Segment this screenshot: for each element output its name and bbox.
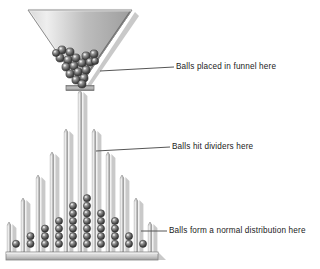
divider-5 — [64, 129, 67, 252]
bin-3-ball-3 — [41, 225, 48, 232]
ball-highlight — [66, 58, 68, 60]
ball-highlight — [76, 70, 78, 72]
funnel-ball-18 — [52, 49, 59, 56]
bin-7-ball-3 — [97, 225, 104, 232]
ball-body — [66, 70, 74, 78]
ball-body — [91, 57, 98, 64]
ball-body — [83, 233, 90, 240]
ball-body — [83, 195, 90, 202]
ball-highlight — [85, 196, 87, 198]
ball-body — [97, 210, 104, 217]
ball-highlight — [64, 65, 66, 67]
ball-highlight — [93, 59, 95, 61]
bin-10-ball-1 — [139, 240, 146, 247]
ball-highlight — [57, 227, 59, 229]
ball-highlight — [85, 242, 87, 244]
ball-highlight — [74, 78, 76, 80]
ball-highlight — [29, 234, 31, 236]
ball-highlight — [141, 242, 143, 244]
bin-7-ball-2 — [97, 233, 104, 240]
ball-body — [41, 233, 48, 240]
ball-body — [55, 225, 62, 232]
bin-5-ball-1 — [69, 240, 76, 247]
ball-body — [27, 240, 34, 247]
ball-highlight — [82, 76, 84, 78]
funnel-ball-12 — [66, 70, 74, 78]
bin-8-ball-4 — [111, 217, 118, 224]
bin-8-ball-2 — [111, 233, 118, 240]
ball-body — [97, 217, 104, 224]
bin-1-ball-1 — [12, 240, 19, 247]
divider-9 — [120, 175, 123, 252]
bin-3-ball-1 — [41, 240, 48, 247]
diagram-canvas: Balls placed in funnel here Balls hit di… — [0, 0, 320, 269]
ball-highlight — [71, 234, 73, 236]
ball-highlight — [14, 242, 16, 244]
divider-8 — [106, 152, 109, 252]
bin-4-ball-2 — [55, 233, 62, 240]
ball-highlight — [84, 68, 86, 70]
bin-7-ball-1 — [97, 240, 104, 247]
ball-highlight — [85, 219, 87, 221]
bin-6-ball-1 — [83, 240, 90, 247]
funnel — [28, 10, 132, 91]
bin-4-ball-4 — [55, 217, 62, 224]
ball-highlight — [85, 227, 87, 229]
ball-highlight — [71, 204, 73, 206]
ball-highlight — [80, 61, 82, 63]
divider-2 — [21, 198, 24, 252]
ball-body — [83, 210, 90, 217]
ball-highlight — [72, 64, 74, 66]
annotation-label-dividers: Balls hit dividers here — [172, 143, 253, 151]
bin-7-ball-4 — [97, 217, 104, 224]
ball-highlight — [43, 234, 45, 236]
divider-4 — [50, 152, 53, 252]
ball-body — [111, 225, 118, 232]
ball-highlight — [85, 211, 87, 213]
ball-body — [83, 225, 90, 232]
bin-6-ball-5 — [83, 210, 90, 217]
ball-body — [125, 240, 132, 247]
funnel-ball-13 — [74, 68, 82, 76]
bin-2-ball-1 — [27, 240, 34, 247]
ball-highlight — [92, 52, 94, 54]
ball-highlight — [127, 234, 129, 236]
ball-highlight — [71, 242, 73, 244]
ball-highlight — [80, 82, 82, 84]
ball-body — [90, 50, 98, 58]
annotation-label-distribution: Balls form a normal distribution here — [169, 227, 306, 235]
bin-9-ball-1 — [125, 240, 132, 247]
ball-highlight — [99, 234, 101, 236]
ball-highlight — [54, 51, 56, 53]
ball-body — [69, 225, 76, 232]
ball-highlight — [43, 227, 45, 229]
ball-highlight — [99, 242, 101, 244]
ball-body — [55, 233, 62, 240]
ball-body — [41, 240, 48, 247]
bin-8-ball-3 — [111, 225, 118, 232]
ball-body — [27, 233, 34, 240]
bin-6-ball-4 — [83, 217, 90, 224]
ball-body — [139, 240, 146, 247]
divider-1 — [7, 222, 10, 252]
divider-11 — [148, 222, 151, 252]
ball-body — [111, 217, 118, 224]
bin-2-ball-2 — [27, 233, 34, 240]
ball-highlight — [68, 72, 70, 74]
funnel-ball-7 — [90, 50, 98, 58]
ball-highlight — [57, 234, 59, 236]
funnel-ball-2 — [66, 48, 74, 56]
ball-highlight — [88, 60, 90, 62]
ball-highlight — [71, 211, 73, 213]
bin-6-ball-2 — [83, 233, 90, 240]
leader-line-funnel — [100, 67, 174, 71]
ball-highlight — [43, 242, 45, 244]
bin-4-ball-1 — [55, 240, 62, 247]
ball-highlight — [113, 227, 115, 229]
ball-highlight — [74, 56, 76, 58]
ball-highlight — [113, 234, 115, 236]
bin-5-ball-5 — [69, 210, 76, 217]
ball-body — [52, 49, 59, 56]
ball-highlight — [29, 242, 31, 244]
board-floor — [6, 252, 158, 260]
